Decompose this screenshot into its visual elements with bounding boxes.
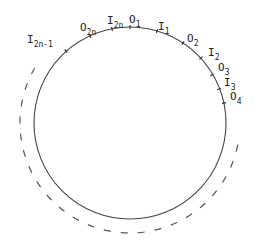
label-i2n-1: I2n-1 <box>27 33 53 49</box>
label-subscript: 2n <box>114 21 124 30</box>
label-subscript: 2n-1 <box>34 40 53 49</box>
dashed-outer-arc <box>20 68 238 233</box>
label-base: I <box>224 76 231 89</box>
label-base: O <box>80 21 87 34</box>
label-subscript: 1 <box>136 20 141 29</box>
label-o3: O3 <box>218 61 230 77</box>
label-subscript: 1 <box>165 27 170 36</box>
label-base: O <box>218 61 225 74</box>
tick-o4 <box>222 103 226 104</box>
label-o2n: O2n <box>80 21 96 37</box>
label-subscript: 4 <box>237 97 242 106</box>
label-o4: O4 <box>230 90 242 106</box>
label-i1: I1 <box>158 20 170 36</box>
label-base: I <box>208 46 215 59</box>
label-base: I <box>107 14 114 27</box>
circle-diagram: O1I1O2I2O3I3O4I2nO2nI2n-1 <box>0 0 260 244</box>
tick-i2n <box>112 27 113 31</box>
label-i2n: I2n <box>107 14 123 30</box>
label-base: O <box>129 13 136 26</box>
label-subscript: 2n <box>87 28 97 37</box>
label-base: O <box>230 90 237 103</box>
main-circle <box>34 27 226 219</box>
label-o2: O2 <box>187 32 199 48</box>
label-i2: I2 <box>208 46 220 62</box>
label-subscript: 2 <box>194 39 199 48</box>
label-base: O <box>187 32 194 45</box>
label-base: I <box>158 20 165 33</box>
label-base: I <box>27 33 34 46</box>
